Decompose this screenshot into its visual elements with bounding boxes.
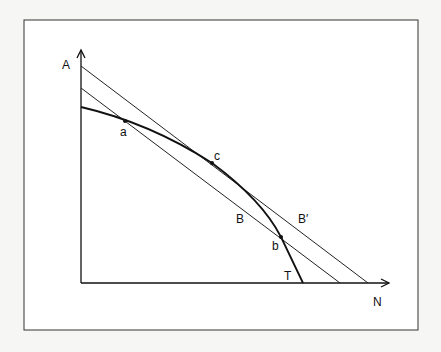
y-axis-label: A <box>62 58 70 72</box>
label-a: a <box>120 125 127 139</box>
point-b <box>279 235 283 239</box>
x-axis-label: N <box>373 295 382 309</box>
diagram: A N a c b B B′ T <box>0 0 441 352</box>
label-curve-t: T <box>284 269 292 283</box>
label-line-b: B <box>236 212 244 226</box>
label-c: c <box>214 149 220 163</box>
point-a <box>123 119 127 123</box>
label-b: b <box>272 239 279 253</box>
label-line-b-prime: B′ <box>298 212 309 226</box>
